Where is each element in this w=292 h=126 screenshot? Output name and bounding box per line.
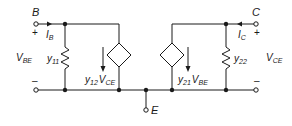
ib-label: IB — [46, 29, 54, 41]
y21-vbe-label: y21VBE — [177, 74, 208, 86]
junction-dot — [170, 88, 174, 92]
junction-dot — [224, 22, 228, 26]
terminal-c-label: C — [252, 6, 260, 18]
junction-dot — [63, 88, 67, 92]
terminal-b-label: B — [32, 6, 39, 18]
vce-label: VCE — [266, 52, 283, 64]
junction-dot — [144, 88, 148, 92]
y12-vce-label: y12VCE — [84, 74, 116, 86]
y-parameter-circuit-diagram: B C E + – + – VBE IB y11 y12VCE y21VBE I… — [0, 0, 292, 126]
base-terminal — [34, 22, 38, 26]
left-minus-sign: – — [32, 75, 38, 86]
collector-terminal — [254, 22, 258, 26]
junction-dot — [63, 22, 67, 26]
junction-dot — [117, 88, 121, 92]
right-minus-sign: – — [254, 75, 260, 86]
left-plus-sign: + — [32, 27, 38, 38]
y22-label: y22 — [233, 53, 247, 65]
left-dependent-source-icon — [107, 43, 131, 67]
circuit-svg: B C E + – + – VBE IB y11 y12VCE y21VBE I… — [0, 0, 292, 126]
y22-resistor-icon — [222, 47, 230, 69]
ic-arrow-icon — [237, 22, 242, 27]
right-dependent-source-icon — [160, 43, 184, 67]
base-return-terminal — [34, 88, 38, 92]
terminal-e-label: E — [151, 104, 159, 116]
y11-resistor-icon — [61, 47, 69, 69]
collector-return-terminal — [254, 88, 258, 92]
ic-label: IC — [238, 29, 247, 41]
junction-dot — [224, 88, 228, 92]
emitter-terminal — [144, 108, 148, 112]
y11-label: y11 — [46, 53, 59, 65]
right-plus-sign: + — [254, 27, 260, 38]
vbe-label: VBE — [16, 52, 32, 64]
ib-arrow-icon — [47, 22, 52, 27]
